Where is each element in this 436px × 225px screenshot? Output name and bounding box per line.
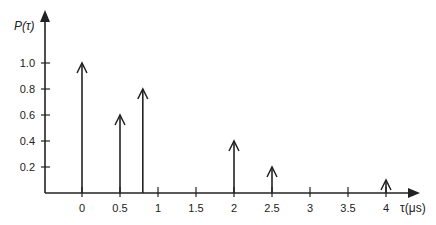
impulse-stem [77,63,87,193]
x-tick-label: 3.5 [340,202,355,214]
impulse-stem [381,180,391,193]
x-tick-label: 0.5 [112,202,127,214]
y-axis-label: P(τ) [14,19,34,33]
axes [40,10,420,198]
impulse-stem [267,167,277,193]
x-tick-label: 2 [231,202,237,214]
x-tick-label: 2.5 [264,202,279,214]
x-tick-label: 3 [307,202,313,214]
power-delay-profile-chart: 0.20.40.60.81.0 00.511.522.533.54 P(τ) τ… [0,0,436,225]
y-tick-label: 0.2 [20,161,35,173]
impulse-stem [115,115,125,193]
impulse-stem [138,89,148,193]
impulse-stem [229,141,239,193]
x-tick-label: 1 [155,202,161,214]
y-tick-label: 0.8 [20,83,35,95]
x-axis-label: τ(μs) [400,201,426,215]
y-tick-label: 0.4 [20,135,35,147]
x-tick-label: 1.5 [188,202,203,214]
y-tick-label: 0.6 [20,109,35,121]
x-tick-label: 0 [79,202,85,214]
y-tick-label: 1.0 [20,57,35,69]
x-tick-label: 4 [383,202,389,214]
impulse-stems [77,63,391,193]
x-axis-arrow-icon [408,188,420,198]
y-axis-arrow-icon [40,10,50,22]
